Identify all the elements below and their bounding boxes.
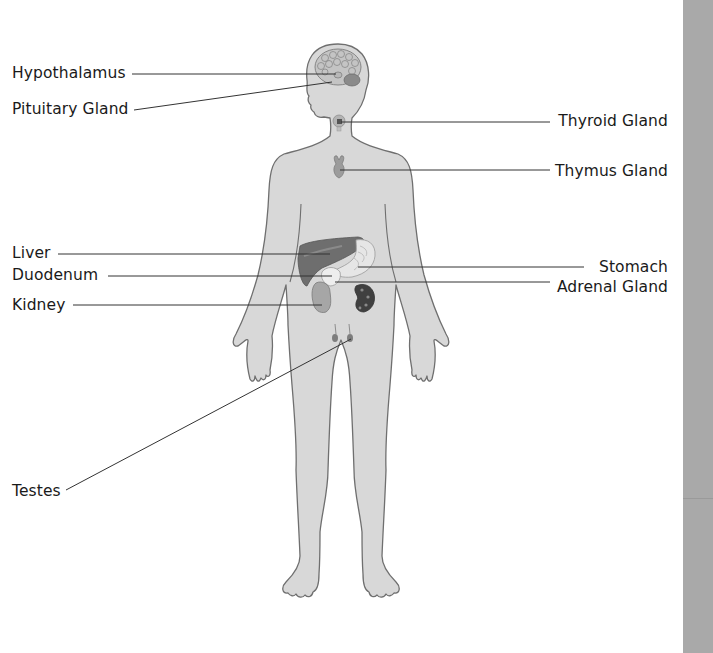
label-thyroid-gland: Thyroid Gland [558,112,668,130]
human-body-diagram [0,0,683,653]
panel-divider [683,498,713,499]
kidney-icon [312,282,331,313]
label-liver: Liver [12,244,51,262]
label-duodenum: Duodenum [12,266,98,284]
label-stomach: Stomach [599,258,668,276]
label-thymus-gland: Thymus Gland [555,162,668,180]
label-testes: Testes [12,482,61,500]
label-hypothalamus: Hypothalamus [12,64,126,82]
label-pituitary-gland: Pituitary Gland [12,100,129,118]
leader-pituitary [134,82,332,110]
label-kidney: Kidney [12,296,65,314]
right-gray-panel [683,0,713,653]
label-adrenal-gland: Adrenal Gland [557,278,668,296]
